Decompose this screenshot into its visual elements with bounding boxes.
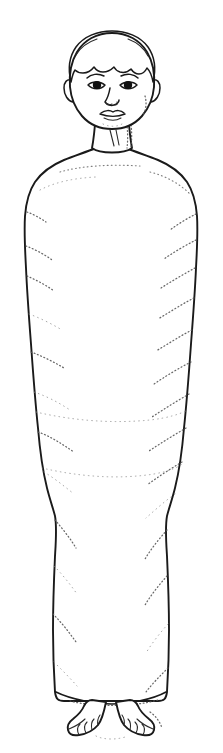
swaddled-figure-drawing <box>0 0 223 753</box>
wrapping-group <box>25 148 198 701</box>
left-eye-pupil <box>93 81 101 89</box>
wrapping-outline <box>25 148 198 701</box>
feet-ground-shadow <box>96 736 128 739</box>
illustration-canvas: Front view line illustration of a child … <box>0 0 223 753</box>
right-eye-pupil <box>124 81 132 89</box>
head-group <box>64 31 160 129</box>
left-foot <box>68 700 106 735</box>
right-foot <box>116 700 154 735</box>
